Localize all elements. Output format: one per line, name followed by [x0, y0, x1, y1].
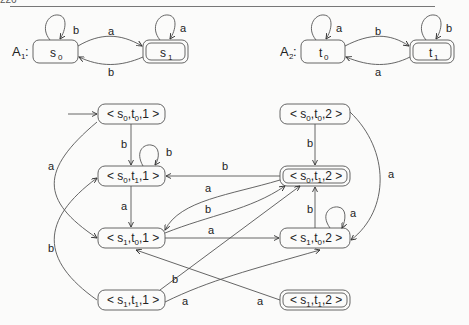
svg-text:b: b — [73, 24, 79, 36]
svg-text:b: b — [205, 203, 211, 215]
svg-text:b: b — [446, 22, 452, 34]
svg-text:0: 0 — [58, 53, 63, 62]
svg-text:s: s — [160, 46, 166, 60]
svg-text:A: A — [12, 44, 21, 59]
svg-text::: : — [25, 44, 29, 59]
svg-text:< s1,t1,2 >: < s1,t1,2 > — [290, 293, 342, 309]
svg-text:b: b — [48, 242, 54, 254]
svg-text:< s1,t0,2 >: < s1,t0,2 > — [290, 231, 342, 247]
svg-text:< s0,t1,1 >: < s0,t1,1 > — [107, 169, 159, 185]
svg-text:a: a — [121, 200, 128, 212]
svg-text:a: a — [375, 66, 382, 78]
svg-text:a: a — [205, 182, 212, 194]
svg-text:< s1,t0,1 >: < s1,t0,1 > — [107, 231, 159, 247]
svg-text:< s1,t1,1 >: < s1,t1,1 > — [107, 293, 159, 309]
svg-text:< s0,t1,2 >: < s0,t1,2 > — [290, 169, 342, 185]
svg-text:a: a — [48, 160, 55, 172]
svg-text:a: a — [336, 22, 343, 34]
svg-text::: : — [293, 44, 297, 59]
svg-text:a: a — [208, 224, 215, 236]
svg-text:b: b — [172, 273, 178, 285]
svg-text:a: a — [180, 22, 187, 34]
svg-text:b: b — [307, 203, 313, 215]
svg-text:A: A — [280, 44, 289, 59]
svg-text:a: a — [182, 295, 189, 307]
svg-text:b: b — [121, 138, 127, 150]
svg-text:a: a — [108, 25, 115, 37]
svg-text:b: b — [108, 66, 114, 78]
svg-text:t: t — [319, 46, 323, 60]
loop-s0-b — [45, 15, 65, 40]
svg-text:a: a — [350, 207, 357, 219]
svg-text:s: s — [50, 46, 56, 60]
svg-text:t: t — [429, 46, 433, 60]
svg-text:1: 1 — [168, 53, 173, 62]
svg-text:b: b — [222, 160, 228, 172]
svg-text:b: b — [375, 25, 381, 37]
svg-text:a: a — [388, 168, 395, 180]
svg-text:1: 1 — [434, 53, 439, 62]
svg-text:a: a — [257, 295, 264, 307]
svg-text:0: 0 — [324, 53, 329, 62]
svg-text:b: b — [307, 137, 313, 149]
svg-text:< s0,t0,1 >: < s0,t0,1 > — [107, 107, 159, 123]
automata-diagram: A1: s0 s1 ba ab A2: t0 t1 ab ba < s0,t0,… — [0, 0, 469, 325]
svg-text:< s0,t0,2 >: < s0,t0,2 > — [290, 107, 342, 123]
svg-text:b: b — [166, 146, 172, 158]
